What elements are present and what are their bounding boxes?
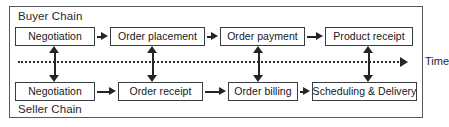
seller-node-negotiation: Negotiation	[15, 82, 95, 101]
time-axis-arrowhead-icon	[400, 57, 408, 67]
seller-flow-arrow-1	[205, 87, 226, 96]
buyer-chain-label: Buyer Chain	[18, 10, 82, 22]
buyer-node-negotiation: Negotiation	[15, 27, 95, 46]
seller-node-order-receipt: Order receipt	[118, 82, 203, 101]
buyer-node-product-receipt: Product receipt	[325, 27, 413, 46]
seller-flow-arrow-0	[97, 87, 116, 96]
buyer-node-order-payment: Order payment	[220, 27, 305, 46]
seller-flow-arrow-2	[300, 87, 310, 96]
buyer-node-order-placement: Order placement	[110, 27, 205, 46]
seller-node-scheduling-delivery: Scheduling & Delivery	[312, 82, 417, 101]
buyer-flow-arrow-0	[97, 32, 108, 41]
seller-chain-label: Seller Chain	[18, 103, 82, 115]
buyer-flow-arrow-2	[307, 32, 323, 41]
buyer-flow-arrow-1	[207, 32, 218, 41]
time-axis-line	[18, 61, 402, 65]
seller-node-order-billing: Order billing	[228, 82, 298, 101]
time-axis-label: Time	[425, 55, 449, 67]
